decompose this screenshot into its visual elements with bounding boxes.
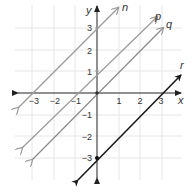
line-label-n: n (122, 1, 128, 13)
x-tick-label: −3 (29, 96, 39, 106)
lines (18, 8, 181, 180)
line-label-q: q (166, 18, 173, 30)
x-axis-label: x (177, 94, 184, 106)
point-0-m3 (95, 156, 99, 160)
y-tick-label: −3 (82, 153, 92, 163)
axis-labels: x y n p q r (85, 1, 185, 106)
line-label-p: p (154, 10, 161, 22)
x-tick-label: 2 (137, 96, 142, 106)
point-0-3 (95, 26, 98, 29)
x-tick-label: −1 (71, 96, 81, 106)
x-tick-label: 3 (158, 96, 163, 106)
coordinate-plane: −3 −2 −1 1 2 3 3 2 1 −1 −2 −3 x y n p q … (0, 0, 193, 194)
graph-figure: −3 −2 −1 1 2 3 3 2 1 −1 −2 −3 x y n p q … (0, 0, 193, 194)
y-tick-label: 3 (87, 23, 92, 33)
point-origin (95, 91, 99, 95)
y-tick-label: 2 (87, 46, 92, 56)
point-0-1 (95, 69, 98, 72)
y-tick-label: −1 (82, 110, 92, 120)
x-tick-label: 1 (116, 96, 121, 106)
y-tick-label: 1 (87, 67, 92, 77)
line-label-r: r (180, 59, 185, 71)
y-tick-label: −2 (82, 132, 92, 142)
x-tick-label: −2 (50, 96, 60, 106)
line-r (78, 75, 181, 180)
y-axis-label: y (85, 4, 93, 16)
